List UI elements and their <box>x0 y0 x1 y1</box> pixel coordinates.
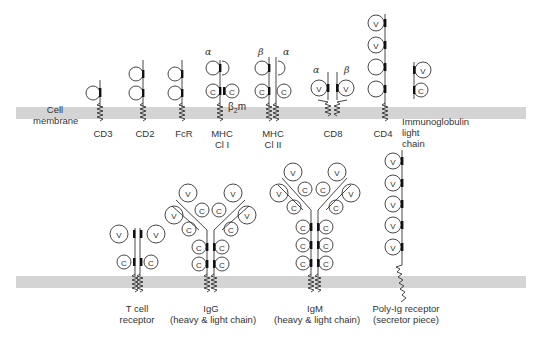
svg-text:V: V <box>390 222 396 231</box>
svg-text:V: V <box>420 67 426 76</box>
poly-ig-receptor-label-line1: Poly-Ig receptor <box>368 303 444 314</box>
svg-text:C: C <box>219 244 225 253</box>
mhc1-label-line2: Cl I <box>207 139 237 150</box>
svg-text:C: C <box>323 260 329 269</box>
svg-text:C: C <box>199 207 205 216</box>
cd2-label: CD2 <box>130 128 160 139</box>
igg-label-line2: (heavy & light chain) <box>170 314 252 325</box>
ig-light-chain-molecule: V C <box>413 62 431 99</box>
tcr-label-line1: T cell <box>117 303 157 314</box>
mhc2-label-line2: Cl II <box>258 139 288 150</box>
igg-label-line1: IgG <box>170 303 252 314</box>
ig-light-chain-label-line1: Immunoglobulin <box>402 116 469 127</box>
fcr-label: FcR <box>169 128 199 139</box>
svg-text:C: C <box>259 88 265 97</box>
mhc2-label-line1: MHC <box>258 128 288 139</box>
svg-text:V: V <box>230 190 236 199</box>
mhc1-beta2m-label: β2m <box>228 101 246 116</box>
ig-light-chain-label-line3: chain <box>402 138 469 149</box>
svg-text:V: V <box>373 42 379 51</box>
svg-text:V: V <box>153 231 159 240</box>
svg-text:V: V <box>373 20 379 29</box>
cell-membrane-label-line2: membrane <box>33 115 77 126</box>
mhc1-alpha-label: α <box>205 46 211 57</box>
svg-text:C: C <box>186 226 192 235</box>
svg-text:C: C <box>229 88 235 97</box>
svg-text:C: C <box>333 204 339 213</box>
igm-label-line1: IgM <box>274 303 356 314</box>
svg-text:C: C <box>320 186 326 195</box>
svg-text:V: V <box>390 244 396 253</box>
mhc2-beta-label: β <box>258 46 264 57</box>
cd8-label: CD8 <box>318 128 348 139</box>
igg-molecule: V V C C V V C C C C C C <box>165 184 256 292</box>
svg-text:C: C <box>291 204 297 213</box>
mhc2-label: MHC Cl II <box>258 128 288 150</box>
igm-label: IgM (heavy & light chain) <box>274 303 356 325</box>
cd8-alpha-label: α <box>313 64 319 75</box>
poly-ig-receptor-label: Poly-Ig receptor (secretor piece) <box>368 303 444 325</box>
svg-text:V: V <box>390 158 396 167</box>
igm-label-line2: (heavy & light chain) <box>274 314 356 325</box>
svg-text:V: V <box>244 212 250 221</box>
cell-membrane-label: Cell membrane <box>33 104 77 126</box>
svg-text:C: C <box>281 88 287 97</box>
svg-text:V: V <box>185 190 191 199</box>
cell-membrane-label-line1: Cell <box>33 104 77 115</box>
diagram-canvas: C C C C V V <box>0 0 534 337</box>
ig-light-chain-label-line2: light <box>402 127 469 138</box>
igg-label: IgG (heavy & light chain) <box>170 303 252 325</box>
tcr-label: T cell receptor <box>117 303 157 325</box>
diagram-svg: C C C C V V <box>0 0 534 337</box>
svg-text:V: V <box>390 180 396 189</box>
svg-text:C: C <box>300 260 306 269</box>
svg-text:C: C <box>196 244 202 253</box>
cd4-molecule: V V <box>368 14 388 121</box>
svg-text:C: C <box>302 186 308 195</box>
svg-text:V: V <box>390 201 396 210</box>
svg-text:C: C <box>219 261 225 270</box>
svg-text:C: C <box>210 88 216 97</box>
mhc2-alpha-label: α <box>283 46 289 57</box>
cd3-label: CD3 <box>88 128 118 139</box>
svg-text:C: C <box>300 242 306 251</box>
svg-text:C: C <box>300 224 306 233</box>
igm-molecule: V V C C V V C C C C C C C C <box>270 163 360 292</box>
bottom-membrane <box>16 276 526 288</box>
cd8-beta-label: β <box>344 64 350 75</box>
svg-text:C: C <box>323 224 329 233</box>
svg-text:V: V <box>171 212 177 221</box>
svg-text:V: V <box>116 231 122 240</box>
svg-text:C: C <box>418 87 424 96</box>
svg-text:V: V <box>290 169 296 178</box>
mhc1-label-line1: MHC <box>207 128 237 139</box>
svg-text:V: V <box>343 85 349 94</box>
svg-text:V: V <box>316 85 322 94</box>
svg-text:C: C <box>148 259 154 268</box>
svg-text:C: C <box>323 242 329 251</box>
svg-text:C: C <box>196 261 202 270</box>
cd4-label: CD4 <box>368 128 398 139</box>
mhc1-label: MHC Cl I <box>207 128 237 150</box>
tcr-label-line2: receptor <box>117 314 157 325</box>
poly-ig-receptor-label-line2: (secretor piece) <box>368 314 444 325</box>
svg-text:C: C <box>121 259 127 268</box>
svg-text:V: V <box>276 190 282 199</box>
svg-text:V: V <box>348 190 354 199</box>
ig-light-chain-label: Immunoglobulin light chain <box>402 116 469 149</box>
svg-text:C: C <box>228 226 234 235</box>
svg-text:C: C <box>216 207 222 216</box>
svg-text:V: V <box>334 169 340 178</box>
